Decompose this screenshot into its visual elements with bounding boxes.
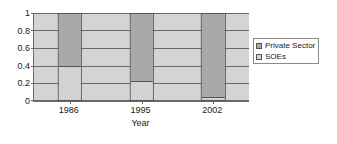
bar-segment-soes[interactable]	[59, 66, 81, 100]
x-axis: 1986 1995 2002	[33, 104, 248, 116]
x-axis-title: Year	[33, 118, 248, 129]
legend-entry-soes[interactable]: SOEs	[256, 52, 315, 61]
legend-swatch-icon	[256, 43, 262, 49]
bar-segment-private-sector[interactable]	[130, 14, 152, 81]
bar-segment-private-sector[interactable]	[59, 14, 81, 66]
y-tick-label: 0.4	[6, 61, 30, 70]
y-axis: 1 0.8 0.6 0.4 0.2 0	[4, 13, 30, 101]
plot-area	[33, 13, 249, 102]
y-tick-label: 0	[6, 97, 30, 106]
legend-entry-private-sector[interactable]: Private Sector	[256, 41, 315, 50]
x-tick-label-1995: 1995	[105, 104, 177, 116]
stacked-bar[interactable]	[58, 13, 82, 101]
bar-segment-soes[interactable]	[130, 81, 152, 100]
bar-segment-private-sector[interactable]	[202, 14, 224, 97]
y-tick-label: 0.6	[6, 44, 30, 53]
bar-slot	[34, 13, 106, 101]
stacked-bar[interactable]	[201, 13, 225, 101]
legend-label: Private Sector	[265, 41, 315, 50]
x-tick-label-2002: 2002	[176, 104, 248, 116]
stacked-bar[interactable]	[129, 13, 153, 101]
bar-slot	[177, 13, 249, 101]
stacked-bar-chart: 1 0.8 0.6 0.4 0.2 0	[0, 0, 337, 144]
bar-slot	[106, 13, 178, 101]
bar-segment-soes[interactable]	[202, 97, 224, 100]
chart-legend: Private Sector SOEs	[253, 38, 319, 64]
y-tick-label: 0.2	[6, 79, 30, 88]
y-tick-label: 0.8	[6, 26, 30, 35]
x-tick-label-1986: 1986	[33, 104, 105, 116]
y-tick-label: 1	[6, 9, 30, 18]
bars-layer	[34, 13, 249, 101]
legend-label: SOEs	[265, 52, 286, 61]
legend-swatch-icon	[256, 54, 262, 60]
